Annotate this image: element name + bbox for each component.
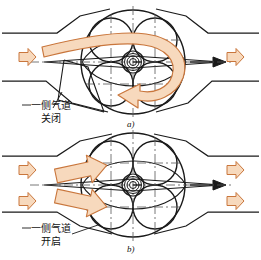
panel-b: 一侧气道 开启 b) [2, 130, 259, 254]
figure-canvas: 一侧气道 关闭 a) [0, 0, 261, 260]
panel-b-inlet-arrow-upper[interactable] [19, 162, 36, 179]
panel-a-caption: a) [127, 119, 135, 129]
panel-a: 一侧气道 关闭 a) [2, 6, 259, 129]
panel-a-annotation-line2: 关闭 [41, 112, 61, 124]
panel-b-annotation-line1: 一侧气道 [31, 222, 71, 234]
panel-b-caption: b) [127, 244, 135, 254]
panel-a-inlet-arrow[interactable] [19, 49, 36, 66]
panel-b-outlet-arrow-lower[interactable] [227, 193, 244, 210]
panel-a-outlet-arrow[interactable] [227, 49, 244, 66]
panel-a-annotation-line1: 一侧气道 [31, 99, 71, 111]
panel-a-swirl-arrow [42, 33, 185, 108]
diagram-svg: 一侧气道 关闭 a) [0, 0, 261, 260]
panel-b-inlet-arrow-lower[interactable] [19, 193, 36, 210]
panel-b-outlet-arrow-upper[interactable] [227, 162, 244, 179]
panel-b-annotation-line2: 开启 [41, 235, 61, 247]
